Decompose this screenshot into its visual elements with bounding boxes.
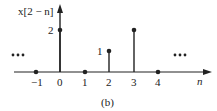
stem-point [83, 70, 88, 75]
continuation-left-icon [12, 54, 25, 57]
tick-label: 2 [106, 76, 112, 88]
stem-point [132, 28, 137, 33]
continuation-right-icon [174, 54, 187, 57]
figure-caption: (b) [101, 96, 114, 109]
stem-point [156, 70, 161, 75]
stem-point [107, 49, 112, 54]
tick-label: 3 [131, 76, 137, 88]
y-axis-arrow-icon [57, 4, 63, 13]
value-label: 2 [48, 24, 54, 36]
stem-point [58, 28, 63, 33]
tick-label: 1 [82, 76, 88, 88]
x-axis-arrow-icon [203, 69, 212, 75]
y-axis-label: x[2 − n] [18, 5, 54, 17]
stem-point [34, 70, 39, 75]
value-label: 1 [97, 45, 103, 57]
tick-label: −1 [31, 76, 43, 88]
tick-label: 0 [57, 76, 63, 88]
tick-label: 4 [155, 76, 161, 88]
x-axis-label: n [197, 75, 203, 87]
stem-plot: x[2 − n] n 2 1 −1 0 1 2 3 4 (b) [0, 0, 217, 111]
